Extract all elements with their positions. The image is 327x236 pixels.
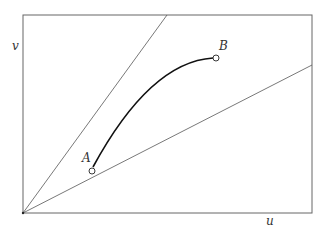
- plot-frame: [23, 15, 312, 213]
- point-b-marker: [213, 55, 219, 61]
- point-a-label: A: [81, 151, 91, 165]
- point-a-marker: [89, 168, 95, 174]
- upper-ray: [23, 15, 167, 213]
- path-curve-a-to-b: [93, 58, 213, 167]
- y-axis-label: v: [12, 39, 19, 53]
- point-b-label: B: [218, 39, 228, 53]
- diagram-canvas: v u A B: [0, 0, 327, 236]
- x-axis-label: u: [266, 214, 274, 228]
- lower-ray: [23, 65, 312, 213]
- origin-marker: [22, 212, 24, 214]
